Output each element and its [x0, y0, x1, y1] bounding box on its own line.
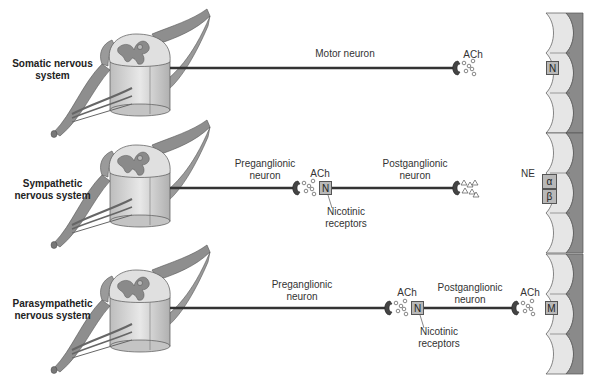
system-label-parasympathetic: Parasympathetic nervous system — [5, 298, 100, 322]
line: Preganglionic — [225, 158, 305, 170]
axon-terminal-icon — [453, 61, 460, 75]
nicotinic-receptors-callout: Nicotinic receptors — [316, 206, 376, 230]
muscarinic-receptor: M — [545, 301, 558, 315]
line: Postganglionic — [370, 158, 460, 170]
ne-vesicles-icon — [461, 180, 479, 197]
parasympathetic-row — [51, 245, 583, 374]
neurotransmitter-label: ACh — [305, 168, 335, 180]
neurotransmitter-label: ACh — [392, 287, 422, 299]
line: receptors — [409, 338, 469, 350]
preganglionic-label: Preganglionic neuron — [225, 158, 305, 182]
neurotransmitter-label: ACh — [515, 287, 545, 299]
system-label-somatic: Somatic nervous system — [10, 58, 95, 82]
preganglionic-label: Preganglionic neuron — [262, 279, 342, 303]
nicotinic-receptors-callout: Nicotinic receptors — [409, 326, 469, 350]
alpha-receptor: α — [542, 174, 557, 189]
line: system — [10, 70, 95, 82]
nicotinic-receptor: N — [546, 61, 559, 75]
neurotransmitter-label: NE — [515, 168, 541, 180]
postganglionic-label: Postganglionic neuron — [430, 282, 510, 306]
line: Nicotinic — [409, 326, 469, 338]
motor-neuron-label: Motor neuron — [300, 48, 390, 60]
line: neuron — [370, 170, 460, 182]
line: Nicotinic — [316, 206, 376, 218]
nicotinic-receptor: N — [319, 181, 332, 195]
line: nervous system — [10, 190, 95, 202]
line: Preganglionic — [262, 279, 342, 291]
system-label-sympathetic: Sympathetic nervous system — [10, 178, 95, 202]
sympathetic-row — [51, 120, 583, 253]
line: receptors — [316, 218, 376, 230]
line: Parasympathetic — [5, 298, 100, 310]
line: Sympathetic — [10, 178, 95, 190]
line: nervous system — [5, 310, 100, 322]
line: Somatic nervous — [10, 58, 95, 70]
postganglionic-label: Postganglionic neuron — [370, 158, 460, 182]
line: neuron — [262, 291, 342, 303]
line: neuron — [430, 294, 510, 306]
line: neuron — [225, 170, 305, 182]
line: Postganglionic — [430, 282, 510, 294]
neurotransmitter-label: ACh — [458, 49, 488, 61]
somatic-row — [51, 9, 583, 138]
nicotinic-receptor: N — [411, 301, 424, 315]
ach-vesicles-icon — [462, 59, 476, 76]
beta-receptor: β — [542, 189, 557, 204]
